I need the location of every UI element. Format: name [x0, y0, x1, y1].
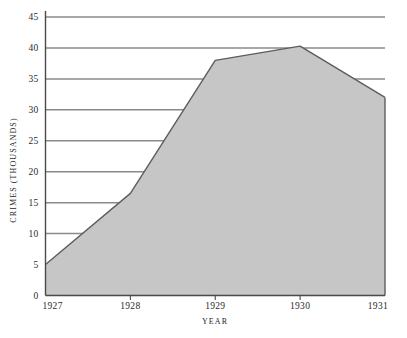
y-tick-label-20: 20: [29, 167, 39, 177]
y-axis-title: CRIMES (THOUSANDS): [9, 117, 18, 222]
y-tick-label-15: 15: [29, 198, 39, 208]
x-tick-label-1930: 1930: [290, 301, 310, 311]
y-tick-label-45: 45: [29, 12, 39, 22]
y-tick-label-40: 40: [29, 43, 39, 53]
y-tick-label-25: 25: [29, 136, 39, 146]
y-tick-label-0: 0: [34, 291, 39, 301]
x-axis-title: YEAR: [202, 317, 228, 326]
x-tick-label-1927: 1927: [43, 301, 63, 311]
y-tick-label-10: 10: [29, 229, 39, 239]
y-tick-label-30: 30: [29, 105, 39, 115]
y-tick-label-35: 35: [29, 74, 39, 84]
x-tick-label-1931: 1931: [368, 301, 388, 311]
x-tick-label-1928: 1928: [120, 301, 140, 311]
crimes-by-year-area-chart: 454035302520151050 19271928192919301931 …: [0, 0, 407, 338]
chart-canvas: 454035302520151050 19271928192919301931 …: [0, 0, 407, 338]
x-tick-label-1929: 1929: [205, 301, 225, 311]
y-tick-label-5: 5: [34, 260, 39, 270]
